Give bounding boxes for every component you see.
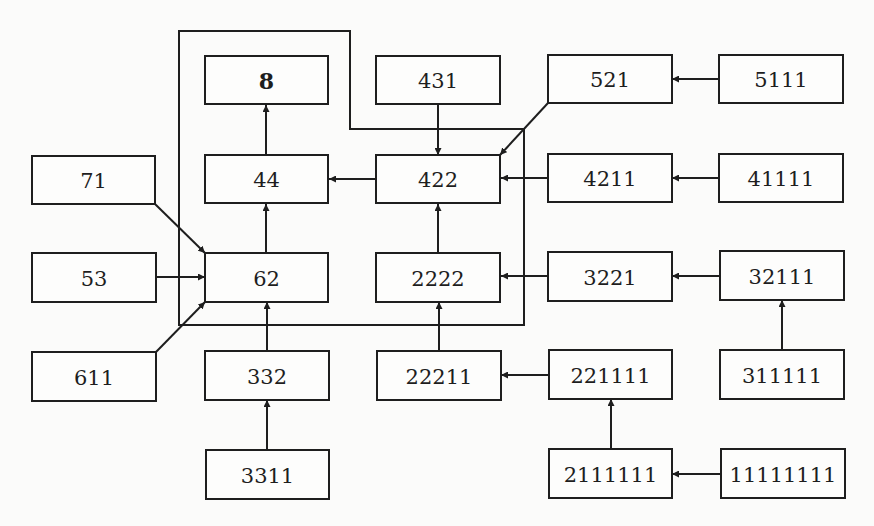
node-label: 611 [74,366,114,390]
node-label: 41111 [748,167,815,191]
node-label: 71 [80,169,107,193]
node-label: 44 [253,168,280,192]
node-8: 8 [205,56,328,104]
node-label: 4211 [583,167,636,191]
flow-diagram: 8431521511171444224211411115362222232213… [0,0,874,526]
node-431: 431 [376,56,500,104]
node-2222: 2222 [376,253,500,302]
node-label: 221111 [570,364,650,388]
node-22211: 22211 [377,351,501,400]
node-label: 3221 [583,266,636,290]
node-label: 8 [259,68,274,94]
node-label: 431 [418,69,458,93]
node-label: 3311 [241,464,294,488]
node-44: 44 [205,155,328,203]
node-label: 22211 [406,365,473,389]
node-5111: 5111 [719,55,843,103]
node-71: 71 [32,156,155,204]
node-611: 611 [32,352,156,401]
node-311111: 311111 [720,350,844,399]
node-62: 62 [205,253,328,302]
node-label: 11111111 [730,463,837,487]
node-label: 5111 [754,68,807,92]
node-332: 332 [205,351,329,400]
node-label: 422 [418,168,458,192]
node-521: 521 [548,55,672,103]
node-label: 311111 [742,364,822,388]
node-11111111: 11111111 [721,449,845,498]
node-3311: 3311 [206,450,329,499]
node-label: 32111 [749,265,816,289]
node-label: 62 [253,267,280,291]
node-32111: 32111 [720,251,844,300]
node-2111111: 2111111 [549,449,672,498]
node-422: 422 [376,155,500,203]
node-53: 53 [32,253,156,302]
node-label: 2222 [411,267,464,291]
node-label: 2111111 [564,463,658,487]
node-41111: 41111 [719,154,843,202]
arrow-611-to-62 [156,302,205,352]
node-label: 53 [81,267,108,291]
node-3221: 3221 [548,252,672,301]
node-label: 332 [247,365,287,389]
node-4211: 4211 [548,154,672,202]
node-label: 521 [590,68,630,92]
node-221111: 221111 [549,350,672,399]
